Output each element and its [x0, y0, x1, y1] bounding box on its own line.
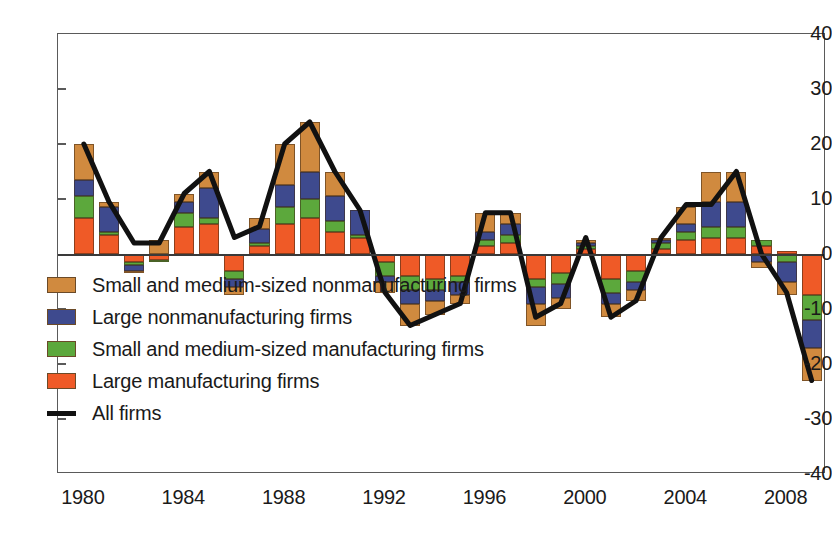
legend-label: Small and medium-sized manufacturing fir… — [92, 338, 484, 361]
x-axis-tick-label: 2000 — [563, 486, 606, 509]
chart-legend: Small and medium-sized nonmanufacturing … — [47, 272, 517, 426]
y-axis-tick-label: 0 — [782, 242, 832, 265]
x-axis-tick-label: 1984 — [162, 486, 205, 509]
legend-color-swatch — [47, 341, 76, 357]
legend-label: All firms — [92, 402, 161, 425]
legend-color-swatch — [47, 373, 76, 389]
y-axis-tick-label: -10 — [782, 297, 832, 320]
y-axis-tick-mark — [57, 198, 66, 200]
y-axis-tick-label: -30 — [782, 407, 832, 430]
y-axis-tick-label: 40 — [782, 22, 832, 45]
y-axis-tick-label: -40 — [782, 462, 832, 485]
chart-root: 403020100-10-20-30-40 198019841988199219… — [0, 0, 832, 533]
y-axis-tick-label: 10 — [782, 187, 832, 210]
y-axis-tick-label: 20 — [782, 132, 832, 155]
legend-item: Large manufacturing firms — [47, 368, 517, 394]
legend-item: Small and medium-sized manufacturing fir… — [47, 336, 517, 362]
x-axis-tick-label: 1980 — [61, 486, 104, 509]
y-axis-tick-label: 30 — [782, 77, 832, 100]
legend-line-marker — [47, 411, 76, 416]
legend-color-swatch — [47, 277, 76, 293]
y-axis-tick-label: -20 — [782, 352, 832, 375]
legend-item: Small and medium-sized nonmanufacturing … — [47, 272, 517, 298]
legend-item: Large nonmanufacturing firms — [47, 304, 517, 330]
y-axis-tick-mark — [57, 143, 66, 145]
legend-label: Large manufacturing firms — [92, 370, 319, 393]
x-axis-tick-label: 2008 — [764, 486, 807, 509]
legend-label: Large nonmanufacturing firms — [92, 306, 352, 329]
legend-color-swatch — [47, 309, 76, 325]
x-axis-tick-label: 1988 — [262, 486, 305, 509]
zero-baseline — [58, 254, 824, 256]
x-axis-tick-label: 2004 — [664, 486, 707, 509]
x-axis-tick-label: 1992 — [362, 486, 405, 509]
legend-label: Small and medium-sized nonmanufacturing … — [92, 274, 517, 297]
y-axis-tick-mark — [57, 88, 66, 90]
x-axis-tick-label: 1996 — [463, 486, 506, 509]
legend-item: All firms — [47, 400, 517, 426]
